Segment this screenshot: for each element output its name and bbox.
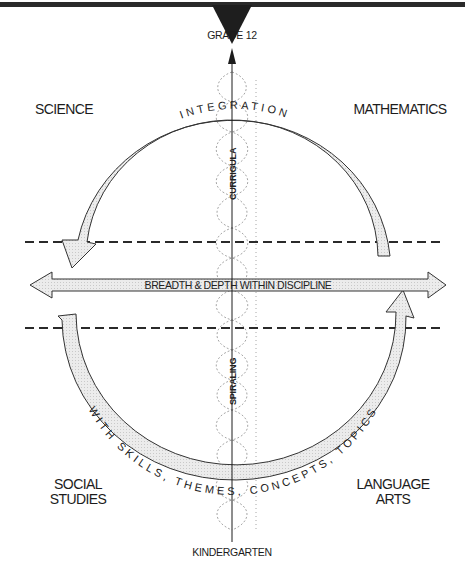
breadth-depth-label: BREADTH & DEPTH WITHIN DISCIPLINE [145,279,332,291]
curriculum-integration-diagram: INTEGRATION WITH SKILLS, THEMES, CONCEPT… [0,0,465,578]
social-studies-label-line1: SOCIAL [54,476,103,492]
language-arts-label-line1: LANGUAGE [357,476,430,492]
kindergarten-label: KINDERGARTEN [192,546,272,558]
spiraling-label: SPIRALING [228,358,238,405]
curricula-label: CURRIGULA [228,147,238,200]
integration-label: INTEGRATION [178,99,292,121]
language-arts-label-line2: ARTS [376,491,411,507]
science-label: SCIENCE [35,101,93,117]
up-arrow-icon [228,48,236,64]
social-studies-label-line2: STUDIES [50,491,107,507]
mathematics-label: MATHEMATICS [353,101,446,117]
breadth-depth-arrow: BREADTH & DEPTH WITHIN DISCIPLINE [30,272,446,298]
skills-themes-label: WITH SKILLS, THEMES, CONCEPTS, TOPICS [86,404,379,497]
spiral-helix [216,72,256,530]
grade-12-label: GRADE 12 [207,29,257,41]
